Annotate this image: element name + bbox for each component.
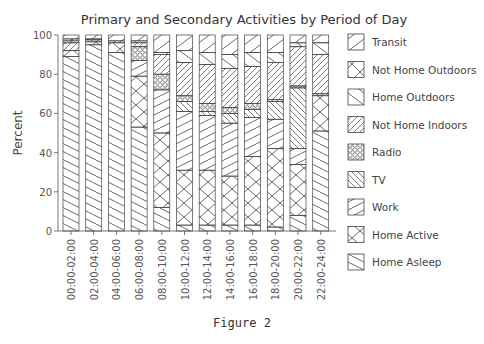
- bar-segment: [222, 35, 238, 55]
- legend: TransitNot Home OutdoorsHome OutdoorsNot…: [348, 34, 476, 270]
- bar-segment: [199, 111, 215, 115]
- bar-segment: [177, 62, 193, 95]
- chart-title: Primary and Secondary Activities by Peri…: [81, 12, 408, 27]
- bar-segment: [290, 47, 306, 86]
- x-tick-label: 02:00-04:00: [89, 239, 100, 300]
- legend-item: Not Home Indoors: [348, 117, 467, 133]
- bar-segment: [154, 74, 170, 90]
- bar-segment: [313, 55, 329, 94]
- bar-segment: [290, 164, 306, 215]
- bar-segment: [86, 42, 102, 45]
- bar-segment: [267, 35, 283, 53]
- bar-segment: [245, 109, 261, 117]
- x-tick-label: 12:00-14:00: [202, 239, 213, 300]
- bar-segment: [63, 35, 79, 39]
- bar-segment: [108, 35, 124, 41]
- x-tick-label: 10:00-12:00: [180, 239, 191, 300]
- bar-segment: [245, 35, 261, 53]
- bar-segment: [199, 53, 215, 65]
- x-tick-label: 18:00-20:00: [270, 239, 281, 300]
- bar: [290, 35, 306, 231]
- bar-segment: [290, 88, 306, 149]
- bar: [222, 35, 238, 231]
- bar-segment: [290, 215, 306, 231]
- bar-segment: [108, 53, 124, 231]
- x-axis: 00:00-02:0002:00-04:0004:00-06:0006:00-0…: [58, 231, 336, 300]
- bar-segment: [290, 43, 306, 47]
- legend-swatch: [348, 89, 364, 105]
- bar-segment: [245, 225, 261, 231]
- bar-segment: [177, 170, 193, 225]
- x-tick-label: 06:00-08:00: [134, 239, 145, 300]
- bar-segment: [267, 53, 283, 63]
- bar-segment: [131, 47, 147, 61]
- bar-segment: [222, 68, 238, 107]
- legend-item: Home Asleep: [348, 254, 442, 270]
- bar-segment: [199, 35, 215, 53]
- bar-segment: [177, 111, 193, 170]
- bar-segment: [177, 51, 193, 63]
- y-tick-label: 0: [46, 226, 52, 237]
- bar: [154, 35, 170, 231]
- bar-segment: [267, 62, 283, 99]
- bar-segment: [222, 176, 238, 225]
- bar-segment: [177, 102, 193, 112]
- legend-item: Not Home Outdoors: [348, 62, 476, 78]
- bar-segment: [63, 57, 79, 231]
- bar-segment: [154, 55, 170, 75]
- bar-segment: [290, 35, 306, 43]
- bar-segment: [108, 43, 124, 53]
- bar-segment: [313, 43, 329, 55]
- bar: [177, 35, 193, 231]
- y-axis: 020406080100: [33, 30, 58, 237]
- x-tick-label: 16:00-18:00: [248, 239, 259, 300]
- bar-segment: [154, 207, 170, 231]
- legend-swatch: [348, 199, 364, 215]
- legend-label: Home Outdoors: [372, 91, 455, 103]
- legend-swatch: [348, 34, 364, 50]
- bar: [245, 35, 261, 231]
- legend-item: Work: [348, 199, 400, 215]
- legend-item: Home Active: [348, 227, 439, 243]
- x-tick-label: 22:00-24:00: [316, 239, 327, 300]
- bar: [267, 35, 283, 231]
- bar-segment: [313, 96, 329, 131]
- y-axis-label: Percent: [11, 110, 25, 155]
- bar-segment: [63, 51, 79, 57]
- bar-segment: [154, 90, 170, 133]
- bar-segment: [177, 96, 193, 102]
- bar-segment: [313, 35, 329, 43]
- figure-caption: Figure 2: [0, 316, 484, 330]
- y-tick-label: 60: [39, 108, 52, 119]
- bar-segment: [245, 157, 261, 226]
- legend-item: TV: [348, 172, 386, 188]
- legend-swatch: [348, 144, 364, 160]
- legend-swatch: [348, 254, 364, 270]
- bar: [86, 35, 102, 231]
- bar-segment: [245, 66, 261, 103]
- legend-label: TV: [371, 174, 386, 186]
- bar-segment: [63, 43, 79, 51]
- legend-swatch: [348, 227, 364, 243]
- x-tick-label: 20:00-22:00: [293, 239, 304, 300]
- bar-segment: [222, 55, 238, 69]
- bar-segment: [131, 127, 147, 231]
- legend-item: Home Outdoors: [348, 89, 455, 105]
- bar-segment: [222, 123, 238, 176]
- bar-segment: [131, 35, 147, 41]
- bar-segment: [154, 35, 170, 53]
- legend-label: Transit: [371, 36, 407, 48]
- y-tick-label: 20: [39, 187, 52, 198]
- bar-segment: [267, 227, 283, 231]
- bar-segment: [199, 225, 215, 231]
- y-tick-label: 100: [33, 30, 52, 41]
- bar-segment: [86, 35, 102, 39]
- legend-label: Radio: [372, 146, 402, 158]
- bar-segment: [222, 225, 238, 231]
- bar-segment: [245, 53, 261, 67]
- legend-label: Work: [372, 201, 400, 213]
- bars: [63, 35, 329, 231]
- bar-segment: [245, 117, 261, 156]
- legend-swatch: [348, 172, 364, 188]
- stacked-bar-chart: Primary and Secondary Activities by Peri…: [0, 0, 484, 344]
